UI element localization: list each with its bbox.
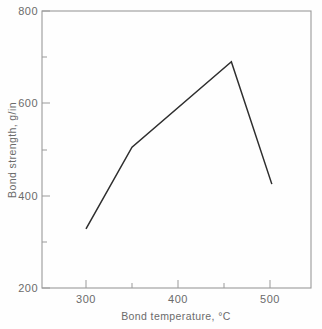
y-tick-label-800: 800	[18, 5, 38, 17]
chart-canvas: 800 600 400 200 300 400 500 Bond tempera…	[0, 0, 322, 329]
x-tick-label-400: 400	[168, 293, 188, 305]
data-series-line	[86, 62, 272, 229]
x-axis-major-ticks	[86, 280, 270, 288]
x-tick-label-300: 300	[76, 293, 96, 305]
y-tick-label-600: 600	[18, 97, 38, 109]
y-axis-minor-ticks	[42, 57, 47, 242]
x-axis-tick-labels: 300 400 500	[76, 293, 280, 305]
y-axis-title: Bond strength, g/in	[6, 102, 18, 198]
x-axis-title: Bond temperature, °C	[121, 310, 231, 322]
y-axis-tick-labels: 800 600 400 200	[18, 5, 38, 294]
x-tick-label-500: 500	[260, 293, 280, 305]
y-tick-label-400: 400	[18, 190, 38, 202]
plot-frame	[42, 11, 311, 288]
y-tick-label-200: 200	[18, 282, 38, 294]
line-chart-figure: 800 600 400 200 300 400 500 Bond tempera…	[0, 0, 322, 329]
